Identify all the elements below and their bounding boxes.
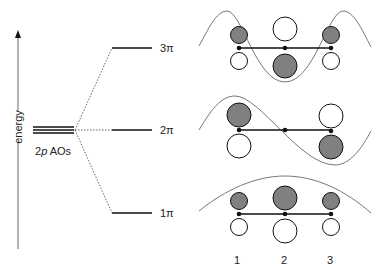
orbital-2pi <box>199 96 371 165</box>
correlation-lines <box>75 48 112 213</box>
ao-levels: 2p AOs <box>33 127 74 157</box>
ao-label: 2p AOs <box>35 145 72 157</box>
energy-label: energy <box>12 110 24 144</box>
level-2pi-label: 2π <box>160 124 174 136</box>
energy-axis: energy <box>12 30 24 249</box>
level-3pi-label: 3π <box>160 42 174 54</box>
arrow-up-icon <box>15 30 21 38</box>
mo-levels: 3π 2π 1π <box>112 42 174 219</box>
atom-label-2: 2 <box>281 254 287 266</box>
atom-label-1: 1 <box>234 254 240 266</box>
orbital-3pi <box>199 11 371 82</box>
pi-mo-diagram: energy 2p AOs 3π 2π 1π <box>0 0 384 275</box>
level-1pi-label: 1π <box>160 207 174 219</box>
atom-labels: 1 2 3 <box>234 254 333 266</box>
atom-label-3: 3 <box>327 254 333 266</box>
orbital-1pi <box>199 176 371 243</box>
